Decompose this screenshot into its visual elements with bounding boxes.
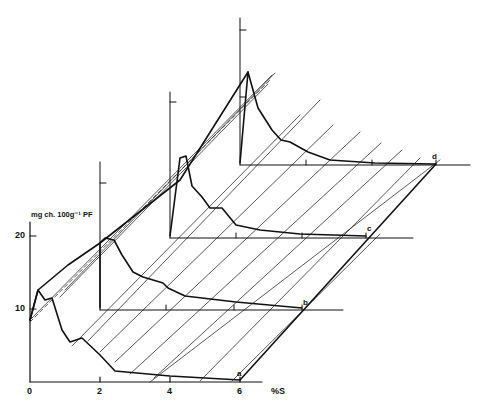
envelope-line: [30, 72, 248, 320]
panel-d-axes: [240, 18, 470, 165]
panel-a-axes: [30, 222, 262, 382]
series-c-line: [170, 156, 366, 236]
x-tick-6: 6: [237, 386, 242, 396]
y-tick-20: 20: [15, 230, 25, 240]
x-tick-0: 0: [27, 386, 32, 396]
y-tick-10: 10: [15, 303, 25, 313]
panel-b-axes: [100, 162, 343, 310]
series-a-line: [30, 290, 240, 380]
series-d-line: [240, 72, 435, 164]
series-label-d: d: [432, 152, 437, 161]
series-label-b: b: [303, 298, 308, 307]
dashed-guide: [30, 80, 270, 322]
x-axis-title: %S: [271, 386, 285, 396]
x-tick-4: 4: [167, 386, 172, 396]
x-tick-2: 2: [97, 386, 102, 396]
series-label-c: c: [367, 224, 371, 233]
chart-figure: mg ch. 100g⁻¹ PF 20 10 0 2 4 6 %S a b c …: [0, 0, 479, 401]
chart-svg: [0, 0, 479, 401]
y-axis-title: mg ch. 100g⁻¹ PF: [31, 210, 93, 219]
series-label-a: a: [237, 369, 241, 378]
